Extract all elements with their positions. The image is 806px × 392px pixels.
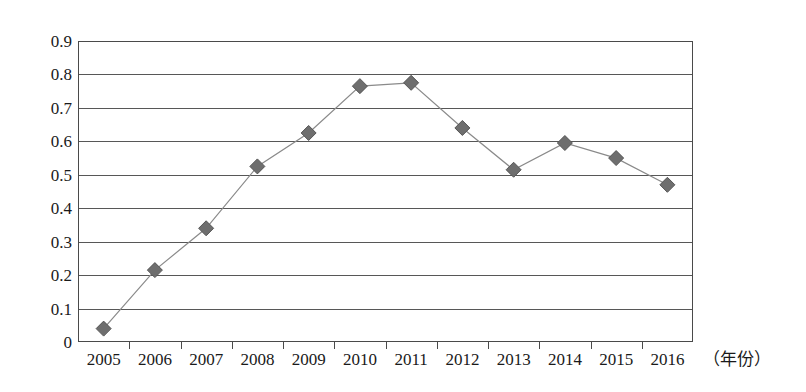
x-axis-tick-mark bbox=[283, 342, 284, 349]
y-axis-tick-label: 0 bbox=[64, 334, 73, 351]
y-axis-tick-label: 0.9 bbox=[51, 33, 72, 50]
x-axis-tick-label: 2014 bbox=[548, 349, 582, 371]
plot-area bbox=[78, 41, 693, 342]
x-axis-tick-label: 2016 bbox=[650, 349, 684, 371]
line-chart: 00.10.20.30.40.50.60.70.80.9 20052006200… bbox=[0, 0, 806, 392]
x-axis-title: （年份） bbox=[703, 349, 771, 371]
x-axis-tick-mark bbox=[539, 342, 540, 349]
x-axis-tick-mark bbox=[488, 342, 489, 349]
y-axis-tick-label: 0.6 bbox=[51, 133, 72, 150]
x-axis-labels: 2005200620072008200920102011201220132014… bbox=[0, 349, 806, 379]
x-axis-tick-label: 2013 bbox=[497, 349, 531, 371]
x-axis-tick-mark bbox=[437, 342, 438, 349]
x-axis-tick-mark bbox=[181, 342, 182, 349]
x-axis-tick-mark bbox=[642, 342, 643, 349]
x-axis-tick-label: 2009 bbox=[292, 349, 326, 371]
x-axis-tick-label: 2012 bbox=[445, 349, 479, 371]
y-axis-tick-label: 0.3 bbox=[51, 233, 72, 250]
x-axis-tick-mark bbox=[591, 342, 592, 349]
gridline bbox=[79, 108, 692, 109]
x-axis-tick-label: 2008 bbox=[240, 349, 274, 371]
gridline bbox=[79, 74, 692, 75]
y-axis-tick-label: 0.7 bbox=[51, 99, 72, 116]
x-axis-tick-label: 2005 bbox=[87, 349, 121, 371]
x-axis-tick-mark bbox=[386, 342, 387, 349]
gridline bbox=[79, 309, 692, 310]
y-axis-tick-label: 0.2 bbox=[51, 267, 72, 284]
x-axis-tick-mark bbox=[232, 342, 233, 349]
x-axis-tick-label: 2010 bbox=[343, 349, 377, 371]
gridline bbox=[79, 275, 692, 276]
y-axis-tick-label: 0.8 bbox=[51, 66, 72, 83]
x-axis-tick-label: 2015 bbox=[599, 349, 633, 371]
x-axis-tick-mark bbox=[334, 342, 335, 349]
gridline bbox=[79, 208, 692, 209]
gridline bbox=[79, 175, 692, 176]
gridline bbox=[79, 141, 692, 142]
y-axis-tick-label: 0.4 bbox=[51, 200, 72, 217]
x-axis-tick-label: 2011 bbox=[394, 349, 427, 371]
y-axis-tick-label: 0.5 bbox=[51, 166, 72, 183]
x-axis-tick-mark bbox=[129, 342, 130, 349]
gridline bbox=[79, 242, 692, 243]
x-axis-tick-label: 2007 bbox=[189, 349, 223, 371]
y-axis-tick-label: 0.1 bbox=[51, 300, 72, 317]
y-axis: 00.10.20.30.40.50.60.70.80.9 bbox=[0, 0, 72, 392]
x-axis-tick-label: 2006 bbox=[138, 349, 172, 371]
